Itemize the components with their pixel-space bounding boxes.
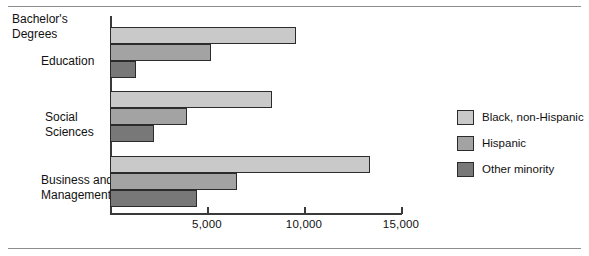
category-label-social-sciences: Social Sciences [45, 110, 94, 139]
legend-item-label: Black, non-Hispanic [482, 111, 584, 123]
legend-swatch-icon [457, 110, 474, 125]
category-label-social-line-2: Sciences [45, 125, 94, 139]
legend-item-label: Hispanic [482, 137, 526, 149]
legend-swatch-icon [457, 162, 474, 177]
bar [110, 91, 272, 108]
x-axis-tick-10000 [304, 207, 306, 214]
legend-item: Black, non-Hispanic [457, 106, 584, 128]
bar [110, 156, 370, 173]
category-label-business-line-1: Business and [41, 173, 113, 187]
x-axis-tick-label-15000: 15,000 [383, 218, 419, 230]
legend-item-label: Other minority [482, 163, 554, 175]
group-title-line-1: Bachelor's [12, 12, 68, 26]
legend-swatch-icon [457, 136, 474, 151]
bar [110, 27, 296, 44]
x-axis-tick-5000 [207, 207, 209, 214]
category-label-education-text: Education [41, 54, 94, 68]
bar [110, 190, 197, 207]
chart-group-title: Bachelor's Degrees [12, 12, 68, 41]
bar [110, 173, 237, 190]
bottom-divider-rule [8, 248, 581, 249]
x-axis-tick-15000 [401, 207, 403, 214]
x-axis-line [110, 213, 402, 215]
category-label-business-line-2: Management [41, 188, 111, 202]
x-axis-tick-label-10000: 10,000 [286, 218, 322, 230]
chart-figure: Bachelor's Degrees Education Social Scie… [0, 0, 589, 256]
category-label-business-management: Business and Management [41, 173, 113, 202]
category-label-social-line-1: Social [45, 110, 78, 124]
bar [110, 44, 211, 61]
legend-item: Hispanic [457, 132, 584, 154]
x-axis-tick-label-5000: 5,000 [192, 218, 222, 230]
bar [110, 108, 187, 125]
plot-area: 5,00010,00015,000 [110, 16, 410, 214]
chart-legend: Black, non-HispanicHispanicOther minorit… [457, 106, 584, 184]
category-label-education: Education [41, 54, 94, 69]
bar [110, 125, 154, 142]
bar [110, 61, 136, 78]
top-divider-rule [8, 6, 581, 7]
group-title-line-2: Degrees [12, 27, 57, 41]
legend-item: Other minority [457, 158, 584, 180]
